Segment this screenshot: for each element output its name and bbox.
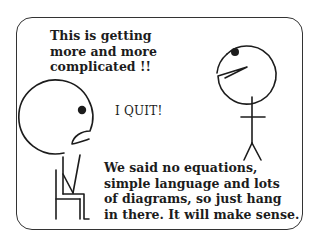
top-caption-line: This is getting bbox=[50, 28, 170, 44]
standing-figure bbox=[217, 46, 276, 160]
seated-figure-head bbox=[19, 80, 93, 154]
top-caption-line: complicated !! bbox=[50, 59, 170, 75]
standing-figure-leg-right bbox=[252, 143, 261, 160]
seated-figure-eye bbox=[78, 106, 86, 114]
seated-figure-arm bbox=[63, 174, 73, 193]
bottom-caption-line: in there. It will make sense. bbox=[104, 207, 304, 223]
standing-figure-eye bbox=[231, 48, 239, 56]
standing-figure-leg-left bbox=[244, 143, 252, 160]
seated-figure-body-front bbox=[73, 155, 80, 193]
seated-figure-legs bbox=[63, 194, 89, 219]
quit-speech: I QUIT! bbox=[115, 104, 162, 120]
top-caption: This is getting more and more complicate… bbox=[50, 28, 170, 75]
bottom-caption-line: simple language and lots bbox=[104, 176, 304, 192]
bottom-caption: We said no equations, simple language an… bbox=[104, 160, 304, 222]
top-caption-line: more and more bbox=[50, 44, 170, 60]
seated-figure bbox=[19, 80, 93, 219]
bottom-caption-line: We said no equations, bbox=[104, 160, 304, 176]
bottom-caption-line: of diagrams, so just hang bbox=[104, 191, 304, 207]
